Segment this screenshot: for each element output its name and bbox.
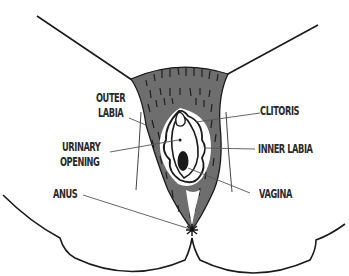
label-urinary-line1: URINARY [62,141,100,154]
anus-mark [186,224,198,236]
diagram-drawing [0,0,349,276]
anatomy-diagram: OUTER LABIA CLITORIS URINARY OPENING INN… [0,0,349,276]
label-inner-labia: INNER LABIA [258,143,313,156]
label-outer-labia-line1: OUTER [96,92,125,105]
label-urinary-line2: OPENING [60,156,99,169]
right-crease [226,112,232,192]
label-clitoris: CLITORIS [260,105,299,118]
vagina-opening [178,151,189,171]
left-buttock-outline [3,195,192,272]
right-buttock-outline [192,224,345,273]
left-groin-line [37,16,132,80]
label-anus: ANUS [53,188,77,201]
right-groin-line [226,25,318,75]
label-vagina: VAGINA [259,188,292,201]
urinary-opening-dot [178,138,181,141]
left-crease [136,112,141,190]
label-outer-labia-line2: LABIA [98,107,123,120]
